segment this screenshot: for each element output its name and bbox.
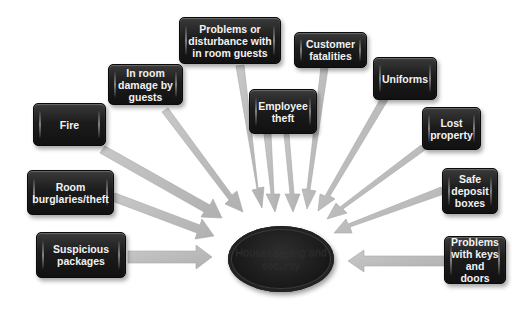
node-in-room-damage: In room damage by guests [108,64,183,105]
center-label: Housekeeping and security [228,246,334,272]
node-label: Room burglaries/theft [32,181,108,205]
node-label: Lost property [429,117,474,141]
node-label: Suspicious packages [43,243,119,267]
node-label: Problems or disturbance with in room gue… [186,23,274,59]
node-keys-doors: Problems with keys and doors [444,236,506,284]
arrow-suspicious-packages [128,245,212,269]
node-fire: Fire [33,103,106,146]
node-label: Employee theft [256,100,310,124]
arrow-customer-fatalities [302,66,328,209]
arrow-in-room-damage [162,108,243,212]
node-label: Uniforms [382,73,428,85]
node-label: Customer fatalities [301,38,360,62]
node-label: Fire [60,119,79,131]
node-customer-fatalities: Customer fatalities [294,32,367,68]
node-problems-disturbance: Problems or disturbance with in room gue… [179,17,281,64]
arrow-lost-property [327,145,425,219]
node-uniforms: Uniforms [373,57,437,100]
center-hub: Housekeeping and security [228,226,334,292]
arrow-problems-disturbance [236,65,264,208]
node-label: Problems with keys and doors [451,236,499,284]
node-employee-theft: Employee theft [249,89,317,134]
node-suspicious-packages: Suspicious packages [36,232,126,278]
node-lost-property: Lost property [422,107,481,150]
arrow-employee-theft-2 [284,134,300,212]
node-room-burglaries: Room burglaries/theft [27,170,114,215]
arrow-employee-theft-1 [264,134,280,212]
arrow-safe-deposit [334,187,444,233]
node-safe-deposit: Safe deposit boxes [442,168,498,214]
node-label: In room damage by guests [115,67,176,103]
arrow-keys-doors [348,250,446,272]
node-label: Safe deposit boxes [449,173,491,209]
arrow-uniforms [318,96,388,211]
